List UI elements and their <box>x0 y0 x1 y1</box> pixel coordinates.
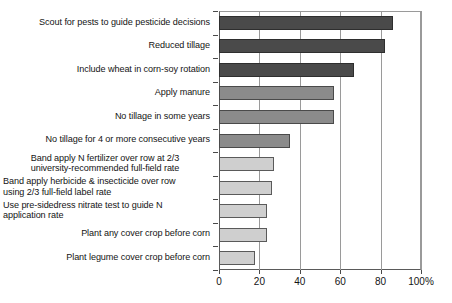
category-label: Band apply herbicide & insecticide over … <box>0 176 216 197</box>
y-tick <box>213 176 218 177</box>
y-tick <box>213 58 218 59</box>
y-tick <box>213 246 218 247</box>
category-label-line: Include wheat in corn-soy rotation <box>0 64 210 74</box>
x-tick <box>219 270 220 274</box>
bar <box>219 16 393 30</box>
category-label: Reduced tillage <box>0 40 216 50</box>
y-tick <box>213 35 218 36</box>
category-label-line: No tillage for 4 or more consecutive yea… <box>0 134 210 144</box>
category-label-line: Plant legume cover crop before corn <box>0 252 210 262</box>
bar <box>219 204 267 218</box>
bar <box>219 110 334 124</box>
category-label-line: application rate <box>3 210 210 220</box>
bar <box>219 157 274 171</box>
y-tick <box>213 152 218 153</box>
bar <box>219 86 334 100</box>
plot-area <box>219 11 421 270</box>
bar-chart: Scout for pests to guide pesticide decis… <box>0 0 452 303</box>
category-label: No tillage for 4 or more consecutive yea… <box>0 134 216 144</box>
y-tick <box>213 11 218 12</box>
bar <box>219 39 385 53</box>
category-label-line: Scout for pests to guide pesticide decis… <box>0 17 210 27</box>
x-tick <box>300 270 301 274</box>
category-label: Scout for pests to guide pesticide decis… <box>0 17 216 27</box>
x-tick-label: 20 <box>254 276 265 287</box>
category-label: Band apply N fertilizer over row at 2/3u… <box>0 153 216 174</box>
y-tick <box>213 199 218 200</box>
category-label-line: Band apply herbicide & insecticide over … <box>3 176 210 186</box>
bar <box>219 134 290 148</box>
category-label: Plant legume cover crop before corn <box>0 252 216 262</box>
x-tick-label: 80 <box>375 276 386 287</box>
category-label-line: Band apply N fertilizer over row at 2/3 <box>0 153 210 163</box>
category-label-line: Reduced tillage <box>0 40 210 50</box>
x-tick-label: 60 <box>335 276 346 287</box>
x-tick <box>421 270 422 274</box>
category-label-column: Scout for pests to guide pesticide decis… <box>0 0 216 303</box>
category-label-line: Plant any cover crop before corn <box>0 228 210 238</box>
y-tick <box>213 129 218 130</box>
category-label: Apply manure <box>0 87 216 97</box>
category-label: Include wheat in corn-soy rotation <box>0 64 216 74</box>
category-label-line: Use pre-sidedress nitrate test to guide … <box>3 200 210 210</box>
category-label: Plant any cover crop before corn <box>0 228 216 238</box>
category-label-line: university-recommended full-field rate <box>0 163 210 173</box>
x-tick <box>381 270 382 274</box>
x-tick <box>340 270 341 274</box>
category-label: Use pre-sidedress nitrate test to guide … <box>0 200 216 221</box>
bar <box>219 251 255 265</box>
bar <box>219 181 272 195</box>
x-tick-label: 100% <box>408 276 434 287</box>
y-tick <box>213 270 218 271</box>
category-label-line: using 2/3 full-field label rate <box>3 187 210 197</box>
gridline-100 <box>421 11 422 270</box>
x-tick <box>259 270 260 274</box>
x-tick-label: 0 <box>216 276 222 287</box>
category-label-line: No tillage in some years <box>0 111 210 121</box>
y-tick <box>213 105 218 106</box>
y-tick <box>213 223 218 224</box>
x-tick-label: 40 <box>294 276 305 287</box>
category-label-line: Apply manure <box>0 87 210 97</box>
bar <box>219 63 354 77</box>
y-tick <box>213 82 218 83</box>
bar <box>219 228 267 242</box>
category-label: No tillage in some years <box>0 111 216 121</box>
